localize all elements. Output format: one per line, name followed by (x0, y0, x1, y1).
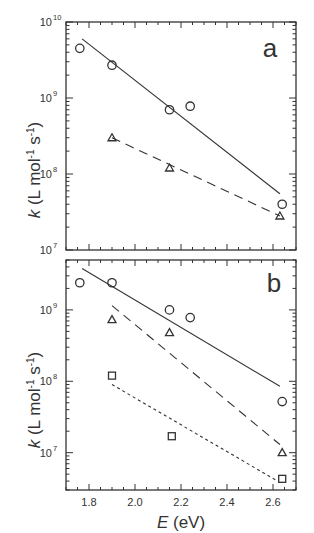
svg-text:9: 9 (53, 89, 57, 98)
square-marker (279, 475, 286, 482)
panel-a-label: a (263, 33, 278, 63)
panel-b: 1091081071.82.02.22.42.6 (40, 260, 296, 508)
fit-line-dashed (112, 138, 280, 216)
square-marker (168, 433, 175, 440)
circle-marker (165, 306, 173, 314)
svg-text:9: 9 (53, 301, 57, 310)
x-tick-label: 2.2 (173, 496, 188, 508)
plot-frame (66, 22, 296, 250)
x-axis-label: E (eV) (157, 513, 205, 532)
y-tick-label: 10 (40, 16, 52, 28)
x-tick-label: 2.4 (219, 496, 234, 508)
fit-line-solid (82, 269, 280, 387)
rate-constant-figure: 1010109108107 1091081071.82.02.22.42.6 a… (0, 0, 314, 533)
triangle-marker (166, 329, 174, 336)
svg-text:10: 10 (53, 13, 61, 22)
triangle-marker (166, 164, 174, 171)
y-axis-label-a: k (L mol-1 s-1) (25, 122, 44, 219)
circle-marker (76, 44, 84, 52)
circle-marker (186, 102, 194, 110)
svg-text:k (L mol-1 s-1): k (L mol-1 s-1) (25, 352, 44, 449)
svg-text:7: 7 (53, 241, 57, 250)
panel-b-label: b (267, 268, 281, 298)
y-tick-label: 10 (40, 244, 52, 256)
y-tick-label: 10 (40, 304, 52, 316)
triangle-marker (278, 449, 286, 456)
triangle-marker (108, 134, 116, 141)
x-tick-label: 1.8 (81, 496, 96, 508)
y-tick-label: 10 (40, 92, 52, 104)
circle-marker (278, 200, 286, 208)
circle-marker (278, 397, 286, 405)
panel-a: 1010109108107 (40, 13, 296, 256)
y-axis-label-b: k (L mol-1 s-1) (25, 352, 44, 449)
svg-text:8: 8 (53, 372, 57, 381)
x-tick-label: 2.6 (265, 496, 280, 508)
fit-line-dotted (112, 385, 278, 482)
circle-marker (76, 279, 84, 287)
triangle-marker (108, 316, 116, 323)
circle-marker (186, 313, 194, 321)
fit-line-dashed (112, 306, 280, 445)
svg-text:k (L mol-1 s-1): k (L mol-1 s-1) (25, 122, 44, 219)
x-tick-label: 2.0 (127, 496, 142, 508)
svg-text:7: 7 (53, 444, 57, 453)
square-marker (109, 372, 116, 379)
svg-text:8: 8 (53, 165, 57, 174)
